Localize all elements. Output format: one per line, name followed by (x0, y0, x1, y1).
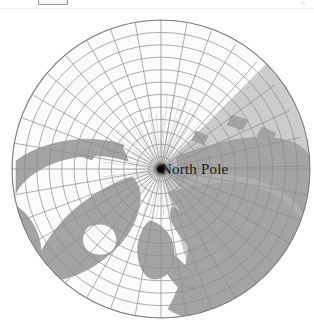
top-toolbar-strip (0, 0, 314, 11)
hudson-bay (83, 224, 117, 255)
toolbar-button[interactable] (38, 0, 68, 5)
polar-map-canvas[interactable]: North Pole (0, 11, 314, 335)
toolbar-divider (0, 8, 314, 9)
polar-projection-svg (0, 11, 314, 335)
pole-dot-marker[interactable] (157, 165, 164, 172)
chevron-down-icon[interactable] (301, 1, 305, 5)
toolbar-button-face (40, 0, 66, 2)
